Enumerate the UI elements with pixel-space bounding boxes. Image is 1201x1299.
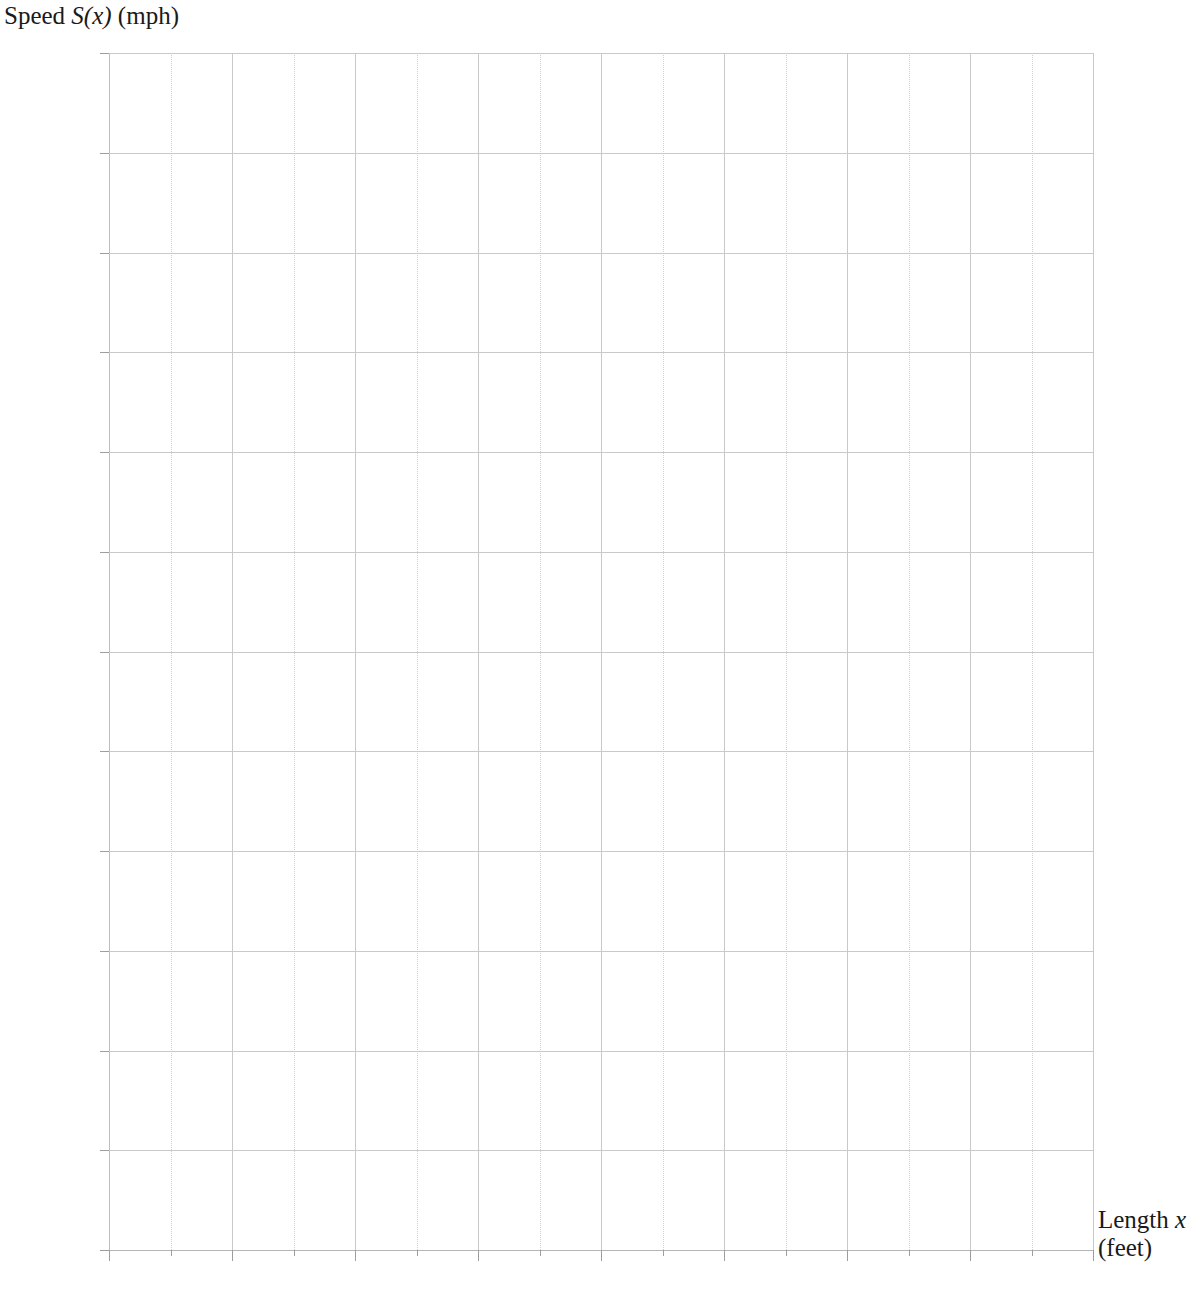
y-tick-major (100, 652, 109, 653)
x-tick-major (1093, 1250, 1094, 1261)
x-tick-major (355, 1250, 356, 1261)
x-tick-minor (1032, 1250, 1033, 1256)
x-tick-minor (294, 1250, 295, 1256)
y-tick-major (100, 352, 109, 353)
x-tick-major (724, 1250, 725, 1261)
x-axis-title: Length x(feet) (1098, 1206, 1186, 1262)
y-tick-major (100, 1051, 109, 1052)
x-tick-minor (786, 1250, 787, 1256)
x-tick-minor (663, 1250, 664, 1256)
x-axis-title-prefix: Length (1098, 1206, 1175, 1233)
y-tick-major (100, 751, 109, 752)
y-tick-major (100, 253, 109, 254)
data-series-layer (109, 53, 1093, 1250)
x-axis-title-variable: x (1175, 1206, 1186, 1233)
x-tick-minor (417, 1250, 418, 1256)
y-tick-major (100, 552, 109, 553)
x-axis-title-line1: Length x (1098, 1206, 1186, 1234)
x-tick-major (601, 1250, 602, 1261)
plot-area: 050100150200250300350400 010203040506070… (109, 53, 1093, 1250)
x-tick-minor (171, 1250, 172, 1256)
y-axis-title: Speed S(x) (mph) (4, 2, 179, 30)
y-axis-title-prefix: Speed (4, 2, 71, 29)
x-tick-major (232, 1250, 233, 1261)
x-tick-major (109, 1250, 110, 1261)
y-tick-major (100, 951, 109, 952)
y-tick-major (100, 153, 109, 154)
y-tick-major (100, 1150, 109, 1151)
gridline-vertical (1093, 53, 1094, 1250)
y-axis-title-variable: S(x) (71, 2, 111, 29)
x-tick-minor (909, 1250, 910, 1256)
x-tick-minor (540, 1250, 541, 1256)
y-tick-major (100, 452, 109, 453)
y-axis-title-suffix: (mph) (112, 2, 179, 29)
y-tick-major (100, 1250, 109, 1251)
y-tick-major (100, 53, 109, 54)
x-tick-major (478, 1250, 479, 1261)
x-axis-title-line2: (feet) (1098, 1234, 1186, 1262)
y-tick-major (100, 851, 109, 852)
x-tick-major (970, 1250, 971, 1261)
x-tick-major (847, 1250, 848, 1261)
